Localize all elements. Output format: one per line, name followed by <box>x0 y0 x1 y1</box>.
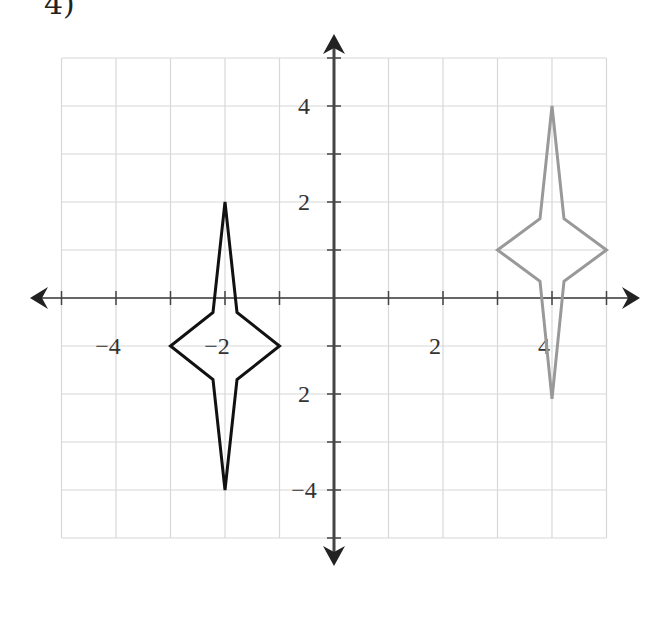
x-tick-label: 2 <box>429 333 441 359</box>
x-tick-label: −2 <box>204 333 230 359</box>
y-tick-label: −4 <box>291 477 317 503</box>
y-tick-label: 4 <box>298 93 310 119</box>
x-tick-label: −4 <box>95 333 121 359</box>
y-tick-label: 2 <box>298 381 310 407</box>
coordinate-plane: −4−224422−4 <box>0 0 664 626</box>
y-tick-label: 2 <box>298 189 310 215</box>
